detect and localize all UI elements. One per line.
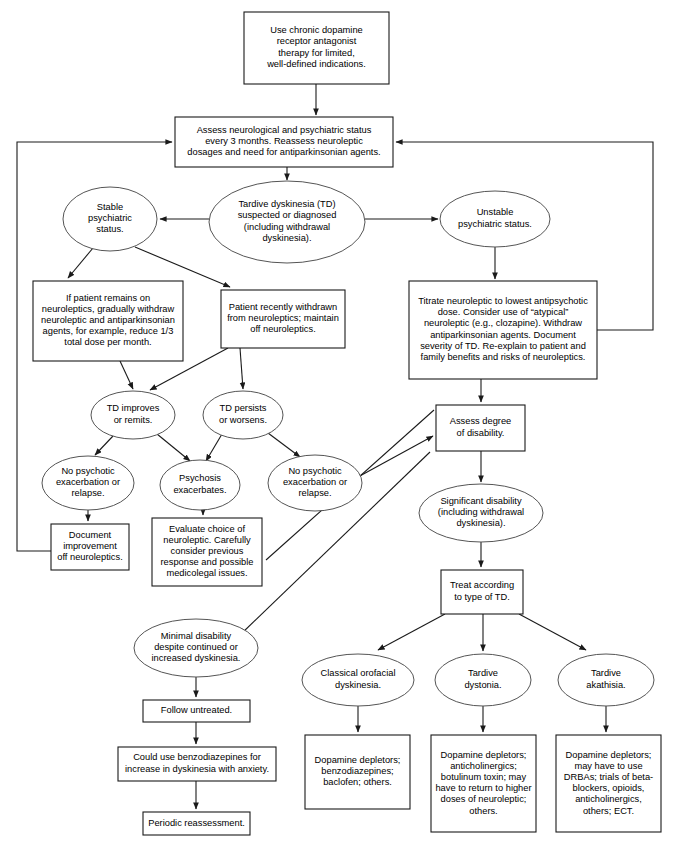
edge-persists-to-nopsych-right (268, 433, 300, 457)
recently-withdrawn-box: Patient recently withdrawnfrom neurolept… (221, 290, 345, 348)
edge-gradual-to-improves (120, 361, 133, 389)
tardive-dystonia-ellipse: Tardivedystonia. (435, 654, 531, 706)
dystonia-treatment-box: Dopamine depletors;anticholinergics;botu… (431, 735, 536, 832)
treat-by-type-box-label: Treat accordingto type of TD. (450, 581, 514, 602)
orofacial-treatment-box: Dopamine depletors;benzodiazepines;baclo… (305, 735, 410, 809)
assess-status-box-label: Assess neurological and psychiatric stat… (187, 125, 380, 157)
evaluate-choice-box: Evaluate choice ofneuroleptic. Carefully… (152, 518, 262, 586)
stable-psychiatric-status-ellipse: Stablepsychiatricstatus. (63, 187, 157, 251)
benzodiazepines-box-label: Could use benzodiazepines forincrease in… (125, 753, 269, 774)
akathisia-treatment-box: Dopamine depletors;may have to useDRBAs;… (556, 735, 661, 832)
treat-by-type-box: Treat accordingto type of TD. (441, 570, 523, 614)
flowchart-root: Use chronic dopaminereceptor antagonistt… (0, 0, 689, 858)
edge-treat-to-orofacial (378, 614, 445, 650)
edge-improves-to-psychosis (157, 434, 190, 461)
titrate-neuroleptic-box: Titrate neuroleptic to lowest antipsycho… (409, 281, 597, 379)
periodic-reassessment-box: Periodic reassessment. (143, 812, 250, 835)
evaluate-choice-box-label: Evaluate choice ofneuroleptic. Carefully… (160, 524, 253, 579)
td-suspected-ellipse: Tardive dyskinesia (TD)suspected or diag… (209, 181, 365, 263)
edge-nopsych-right-to-assess-degree (358, 436, 433, 477)
flowchart-svg: Use chronic dopaminereceptor antagonistt… (0, 0, 689, 858)
unstable-psychiatric-status-ellipse: Unstablepsychiatric status. (440, 191, 550, 247)
edge-persists-to-psychosis (206, 434, 222, 461)
chronic-therapy-box-label: Use chronic dopaminereceptor antagonistt… (266, 26, 366, 70)
classical-orofacial-ellipse: Classical orofacialdyskinesia. (302, 654, 414, 706)
assess-degree-disability-box: Assess degreeof disability. (436, 405, 525, 451)
td-persists-ellipse-label: TD persistsor worsens. (219, 404, 267, 425)
minimal-disability-ellipse-label: Minimal disabilitydespite continued orin… (152, 631, 241, 663)
edge-recently-to-persists (240, 348, 243, 389)
no-exacerbation-right-ellipse: No psychoticexacerbation orrelapse. (268, 455, 362, 511)
chronic-therapy-box: Use chronic dopaminereceptor antagonistt… (244, 12, 389, 84)
minimal-disability-ellipse: Minimal disabilitydespite continued orin… (134, 619, 258, 677)
gradual-withdraw-box: If patient remains onneuroleptics, gradu… (33, 281, 183, 361)
td-improves-ellipse-label: TD improvesor remits. (107, 404, 160, 425)
edge-treat-to-akathisia (519, 614, 586, 650)
benzodiazepines-box: Could use benzodiazepines forincrease in… (118, 747, 276, 781)
follow-untreated-box-label: Follow untreated. (161, 705, 232, 715)
edge-improves-to-nopsych (95, 436, 113, 455)
psychosis-exacerbates-ellipse: Psychosisexacerbates. (160, 460, 240, 510)
document-improvement-box: Documentimprovementoff neuroleptics. (51, 524, 129, 570)
assess-status-box: Assess neurological and psychiatric stat… (175, 117, 393, 167)
periodic-reassessment-box-label: Periodic reassessment. (148, 818, 245, 828)
td-improves-ellipse: TD improvesor remits. (91, 391, 175, 439)
tardive-dystonia-ellipse-label: Tardivedystonia. (464, 669, 501, 690)
tardive-akathisia-ellipse-label: Tardiveakathisia. (586, 669, 625, 690)
significant-disability-ellipse: Significant disability(including withdra… (419, 484, 543, 542)
nodes-layer: Use chronic dopaminereceptor antagonistt… (33, 12, 661, 835)
no-exacerbation-left-ellipse: No psychoticexacerbation orrelapse. (42, 456, 134, 510)
assess-degree-disability-box-label: Assess degreeof disability. (450, 417, 512, 438)
tardive-akathisia-ellipse: Tardiveakathisia. (558, 654, 654, 706)
psychosis-exacerbates-ellipse-label: Psychosisexacerbates. (173, 474, 226, 495)
edge-stable-to-gradual (68, 248, 93, 278)
td-persists-ellipse: TD persistsor worsens. (203, 391, 283, 439)
titrate-neuroleptic-box-label: Titrate neuroleptic to lowest antipsycho… (418, 296, 588, 362)
orofacial-treatment-box-label: Dopamine depletors;benzodiazepines;baclo… (315, 755, 401, 787)
follow-untreated-box: Follow untreated. (143, 700, 250, 722)
